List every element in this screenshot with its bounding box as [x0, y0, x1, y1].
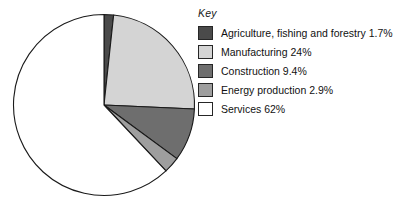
pie-slice-group [14, 15, 195, 196]
legend-item: Agriculture, fishing and forestry 1.7% [196, 24, 396, 42]
legend-swatch [198, 83, 213, 97]
legend-swatch [198, 45, 213, 59]
legend-label: Construction 9.4% [221, 65, 307, 78]
legend-swatch [198, 64, 213, 78]
legend-label: Energy production 2.9% [221, 84, 333, 97]
legend-item-list: Agriculture, fishing and forestry 1.7%Ma… [196, 24, 396, 118]
pie-chart-figure: Key Agriculture, fishing and forestry 1.… [0, 0, 399, 208]
legend-item: Services 62% [196, 100, 396, 118]
legend-item: Energy production 2.9% [196, 81, 396, 99]
legend-item: Manufacturing 24% [196, 43, 396, 61]
legend-label: Services 62% [221, 103, 285, 116]
legend-label: Manufacturing 24% [221, 46, 311, 59]
legend-item: Construction 9.4% [196, 62, 396, 80]
pie-chart-plot [11, 12, 197, 198]
chart-legend: Key Agriculture, fishing and forestry 1.… [196, 7, 396, 119]
legend-swatch [198, 26, 213, 40]
legend-title: Key [198, 7, 396, 19]
legend-label: Agriculture, fishing and forestry 1.7% [221, 27, 393, 40]
legend-swatch [198, 102, 213, 116]
pie-slice [104, 15, 194, 109]
pie-svg [11, 12, 197, 198]
